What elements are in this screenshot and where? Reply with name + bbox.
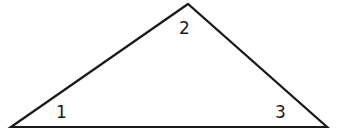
triangle-diagram: 2 1 3	[0, 0, 340, 140]
angle-label-3: 3	[275, 102, 286, 122]
angle-label-1: 1	[56, 102, 67, 122]
angle-label-2: 2	[179, 18, 190, 38]
